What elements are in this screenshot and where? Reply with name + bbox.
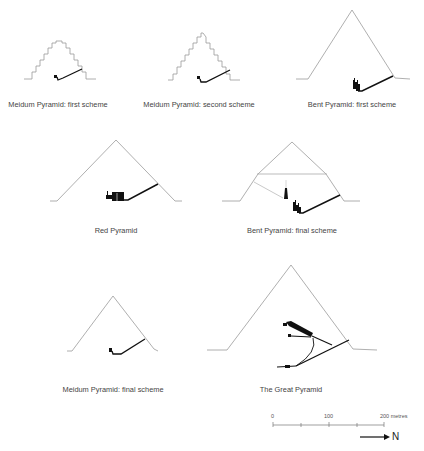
chamber-icon: [54, 75, 57, 78]
scale-tick-100: 100: [324, 413, 333, 419]
panel-label: Bent Pyramid: first scheme: [308, 100, 396, 109]
passage-icon: [112, 339, 145, 354]
ascending-passage-icon: [312, 336, 332, 345]
bent-first-scheme-section: [296, 10, 410, 91]
panel-label: Bent Pyramid: final scheme: [247, 226, 337, 235]
pyramid-sections-diagram: [0, 0, 424, 451]
chamber-icon: [197, 76, 200, 79]
scale-tick-0: 0: [271, 413, 274, 419]
passage-icon: [299, 195, 340, 213]
north-label: N: [392, 431, 399, 442]
meidum-second-scheme-section: [168, 33, 240, 82]
panel-label: Meidum Pyramid: second scheme: [143, 100, 254, 109]
queens-chamber-passage-icon: [291, 336, 311, 337]
chamber-icon: [106, 191, 124, 201]
panel-label: Meidum Pyramid: first scheme: [8, 100, 107, 109]
subterranean-chamber-icon: [285, 365, 290, 368]
bent-final-scheme-section: [222, 142, 360, 213]
scale-tick-200: 200 metres: [380, 413, 408, 419]
panel-label: The Great Pyramid: [260, 385, 322, 394]
chamber-icon: [353, 78, 360, 91]
chamber-icon: [109, 348, 112, 352]
chamber-icon: [284, 188, 288, 199]
passage-icon: [200, 70, 230, 82]
scale-bar: [273, 422, 384, 427]
great-pyramid-section: [207, 265, 377, 368]
meidum-first-scheme-section: [24, 41, 96, 80]
kings-chamber-icon: [283, 323, 287, 326]
descending-passage-icon: [296, 340, 349, 366]
panel-label: Meidum Pyramid: final scheme: [62, 385, 163, 394]
meidum-final-scheme-section: [67, 296, 158, 354]
passage-icon: [358, 76, 393, 91]
passage-icon: [122, 184, 158, 200]
chamber-icon: [293, 200, 301, 213]
passage-icon: [57, 69, 82, 80]
panel-label: Red Pyramid: [95, 226, 138, 235]
north-arrow-icon: [360, 434, 390, 440]
queens-chamber-icon: [288, 334, 291, 337]
red-pyramid-section: [50, 140, 182, 201]
